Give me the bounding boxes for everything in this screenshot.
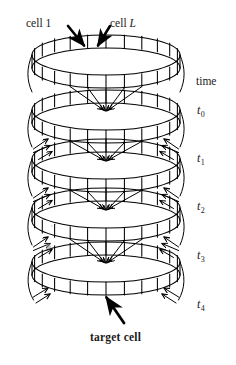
flow-arrow-set bbox=[71, 142, 142, 161]
cell-1-label: cell 1 bbox=[26, 18, 51, 30]
ring-cell-dividers-front bbox=[35, 269, 178, 295]
cell-L-pointer-arrow bbox=[98, 26, 110, 46]
time-tick-base: t bbox=[197, 151, 200, 165]
time-tick-t4: t4 bbox=[197, 298, 204, 310]
time-tick-index: 1 bbox=[201, 158, 205, 167]
cell-L-label: cell L bbox=[110, 18, 136, 30]
time-tick-base: t bbox=[197, 103, 200, 117]
target-cell-label: target cell bbox=[90, 332, 141, 344]
time-tick-t3: t3 bbox=[197, 249, 204, 261]
time-tick-base: t bbox=[197, 297, 200, 311]
ring-cell-dividers-front bbox=[35, 62, 178, 88]
time-tick-index: 0 bbox=[201, 110, 205, 119]
cell-L-prefix: cell bbox=[110, 17, 129, 29]
time-axis-label: time bbox=[196, 76, 216, 88]
ring-cell-dividers bbox=[35, 35, 178, 61]
time-tick-t0: t0 bbox=[197, 104, 204, 116]
ring-cell-band bbox=[32, 35, 180, 88]
cell-1-text: cell 1 bbox=[26, 17, 51, 29]
time-tick-index: 4 bbox=[201, 304, 205, 313]
cell-L-symbol: L bbox=[129, 17, 135, 29]
flow-arrow-set bbox=[71, 87, 142, 111]
time-tick-base: t bbox=[197, 199, 200, 213]
time-tick-index: 3 bbox=[201, 255, 205, 264]
time-tick-t1: t1 bbox=[197, 152, 204, 164]
flow-arrow-set bbox=[71, 191, 142, 210]
callout-arrows bbox=[68, 26, 124, 323]
time-tick-base: t bbox=[197, 248, 200, 262]
time-tick-index: 2 bbox=[201, 206, 205, 215]
flow-arrows-group bbox=[33, 87, 178, 303]
time-tick-t2: t2 bbox=[197, 200, 204, 212]
target-cell-pointer-arrow bbox=[107, 298, 125, 324]
ring-cell-dividers-front bbox=[35, 215, 178, 241]
